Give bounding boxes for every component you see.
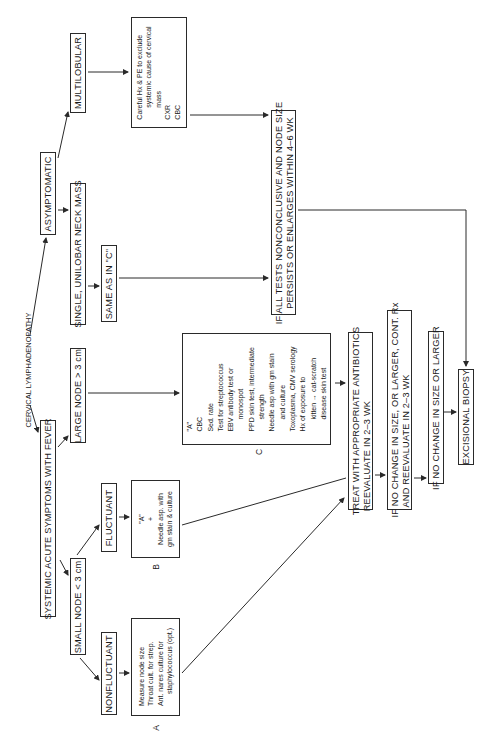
- workup-box-a: Measure node size Throat cult. for strep…: [131, 618, 180, 716]
- workup-box-c: "A" CBC Sed. rate Test for streptococcus…: [182, 333, 331, 445]
- treat-antibiotics-box: TREAT WITH APPROPRIATE ANTIBIOTICS REEVA…: [348, 332, 373, 510]
- no-change-larger-box: IF NO CHANGE IN SIZE OR LARGER: [428, 331, 444, 484]
- same-as-c-box: SAME AS IN "C": [101, 245, 117, 322]
- box-a-label: A: [150, 722, 162, 734]
- large-node-box: LARGE NODE > 3 cm: [70, 348, 86, 443]
- excisional-biopsy-box: EXCISIONAL BIOPSY: [458, 369, 474, 465]
- box-c-label: C: [253, 446, 265, 458]
- multilobular-workup-box: Careful Hx & PE to exclude systemic caus…: [131, 17, 187, 128]
- single-unilobar-box: SINGLE, UNILOBAR NECK MASS: [70, 183, 86, 325]
- small-node-box: SMALL NODE < 3 cm: [70, 558, 86, 655]
- systemic-symptoms-box: SYSTEMIC ACUTE SYMPTOMS WITH FEVER: [40, 420, 56, 617]
- if-all-tests-box: IF ALL TESTS NONCONCLUSIVE AND NODE SIZE…: [271, 110, 296, 315]
- no-change-continue-box: IF NO CHANGE IN SIZE, OR LARGER, CONT. R…: [387, 310, 412, 510]
- diagram-title: CERVICAL LYMPHADENOPATHY: [21, 335, 35, 405]
- workup-box-b: "A" + Needle asp. with gm stain & cultur…: [131, 480, 180, 558]
- fluctuant-box: FLUCTUANT: [101, 483, 117, 552]
- asymptomatic-box: ASYMPTOMATIC: [40, 152, 56, 235]
- multilobular-box: MULTILOBULAR: [70, 33, 86, 113]
- box-b-label: B: [150, 561, 162, 573]
- nonfluctuant-box: NONFLUCTUANT: [101, 632, 117, 715]
